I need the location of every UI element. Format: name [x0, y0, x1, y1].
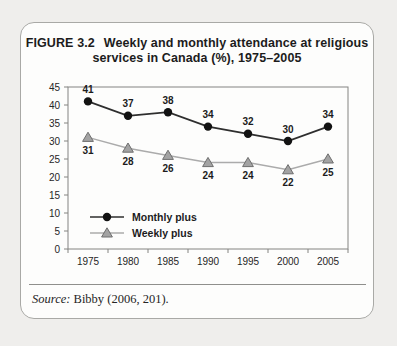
- series-marker-monthly-plus: [204, 122, 212, 130]
- legend-marker-circle: [103, 213, 111, 221]
- series-marker-monthly-plus: [324, 122, 332, 130]
- data-point-label: 38: [162, 95, 174, 106]
- data-point-label: 24: [202, 170, 214, 181]
- series-marker-monthly-plus: [84, 97, 92, 105]
- legend-item-label: Weekly plus: [132, 227, 193, 239]
- y-axis-tick-label: 25: [49, 154, 61, 165]
- series-marker-monthly-plus: [164, 108, 172, 116]
- data-point-label: 22: [282, 177, 294, 188]
- data-point-label: 34: [322, 109, 334, 120]
- x-axis-tick-label: 2005: [317, 256, 340, 267]
- data-point-label: 24: [242, 170, 254, 181]
- data-point-label: 25: [322, 167, 334, 178]
- y-axis-tick-label: 20: [49, 172, 61, 183]
- data-point-label: 30: [282, 124, 294, 135]
- data-point-label: 41: [82, 84, 94, 95]
- series-marker-monthly-plus: [244, 130, 252, 138]
- y-axis-tick-label: 10: [49, 208, 61, 219]
- source-prefix: Source:: [32, 292, 70, 306]
- figure-title-line1: FIGURE 3.2Weekly and monthly attendance …: [21, 36, 373, 51]
- y-axis-tick-label: 5: [54, 226, 60, 237]
- x-axis-tick-label: 1995: [237, 256, 260, 267]
- y-axis-tick-label: 45: [49, 82, 61, 93]
- figure-label: FIGURE 3.2: [26, 36, 95, 50]
- x-axis-tick-label: 2000: [277, 256, 300, 267]
- x-axis-tick-label: 1990: [197, 256, 220, 267]
- figure-title: FIGURE 3.2Weekly and monthly attendance …: [21, 36, 373, 66]
- source-divider: [29, 284, 366, 285]
- chart-area: 0510152025303540451975198019851990199520…: [22, 73, 373, 277]
- figure-title-text: Weekly and monthly attendance at religio…: [104, 36, 368, 50]
- figure-title-line2: services in Canada (%), 1975–2005: [21, 51, 373, 66]
- y-axis-tick-label: 0: [54, 244, 60, 255]
- x-axis-tick-label: 1975: [77, 256, 100, 267]
- series-marker-monthly-plus: [124, 112, 132, 120]
- series-marker-weekly-plus: [83, 132, 94, 141]
- y-axis-tick-label: 30: [49, 136, 61, 147]
- source-text: Bibby (2006, 201).: [70, 292, 168, 306]
- x-axis-tick-label: 1985: [157, 256, 180, 267]
- y-axis-tick-label: 15: [49, 190, 61, 201]
- y-axis-tick-label: 35: [49, 118, 61, 129]
- figure-card: FIGURE 3.2Weekly and monthly attendance …: [20, 22, 374, 319]
- attendance-line-chart: 0510152025303540451975198019851990199520…: [22, 73, 372, 273]
- data-point-label: 32: [242, 116, 254, 127]
- series-marker-weekly-plus: [323, 154, 334, 163]
- y-axis-tick-label: 40: [49, 100, 61, 111]
- legend-item-label: Monthly plus: [132, 211, 197, 223]
- data-point-label: 34: [202, 109, 214, 120]
- x-axis-tick-label: 1980: [117, 256, 140, 267]
- data-point-label: 31: [82, 145, 94, 156]
- source-note: Source: Bibby (2006, 201).: [32, 292, 169, 307]
- data-point-label: 26: [162, 163, 174, 174]
- data-point-label: 37: [122, 98, 134, 109]
- series-marker-monthly-plus: [284, 137, 292, 145]
- data-point-label: 28: [122, 156, 134, 167]
